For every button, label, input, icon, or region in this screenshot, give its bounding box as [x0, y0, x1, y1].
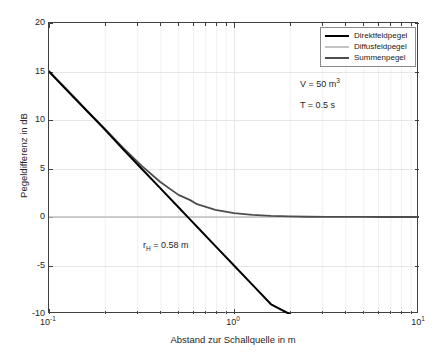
ytick-label: 10: [35, 114, 45, 124]
xtick-label: 10-1: [40, 317, 56, 327]
figure-container: 20 15 10 5 0 -5 -10 10-1 100 101 Abstand…: [0, 0, 440, 356]
y-axis-title: Pegeldifferenz in dB: [18, 71, 29, 241]
xtick-exponent: 0: [236, 315, 240, 322]
legend-label: Summenpegel: [354, 53, 406, 63]
legend-item-summenpegel[interactable]: Summenpegel: [325, 53, 411, 63]
xtick-base: 10: [411, 317, 421, 327]
xtick-base: 10: [40, 317, 50, 327]
ytick-label: 20: [35, 17, 45, 27]
ytick-label: 15: [35, 66, 45, 76]
xtick-exponent: 1: [421, 315, 425, 322]
xtick-label: 101: [411, 317, 425, 327]
ytick-label: -5: [37, 260, 45, 270]
ytick-label: 5: [40, 163, 45, 173]
legend-label: Direktfeldpegel: [354, 31, 407, 41]
annotation-volume: V = 50 m3: [300, 79, 340, 89]
annotation-volume-text: V = 50 m: [300, 79, 336, 89]
annotation-rh-value: = 0.58 m: [151, 240, 189, 250]
annotation-reverberation-time: T = 0.5 s: [300, 100, 335, 110]
annotation-hallradius: rH = 0.58 m: [143, 240, 188, 250]
legend-item-diffusfeldpegel[interactable]: Diffusfeldpegel: [325, 42, 411, 52]
legend-swatch-summenpegel: [325, 57, 349, 59]
annotation-volume-exponent: 3: [336, 77, 340, 84]
ytick-label: 0: [40, 211, 45, 221]
x-axis-title: Abstand zur Schallquelle in m: [48, 334, 418, 345]
legend-swatch-diffusfeldpegel: [325, 46, 349, 48]
legend-swatch-direktfeldpegel: [325, 35, 349, 37]
xtick-label: 100: [226, 317, 240, 327]
legend-box: Direktfeldpegel Diffusfeldpegel Summenpe…: [320, 27, 416, 67]
legend-label: Diffusfeldpegel: [354, 42, 407, 52]
legend-item-direktfeldpegel[interactable]: Direktfeldpegel: [325, 31, 411, 41]
xtick-exponent: -1: [50, 315, 56, 322]
xtick-base: 10: [226, 317, 236, 327]
